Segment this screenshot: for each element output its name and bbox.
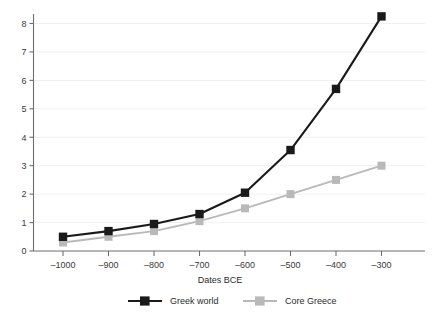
y-axis-tick-label: 8: [21, 19, 26, 29]
data-series-layer: [59, 12, 386, 246]
chart-container: 012345678 –1000–900–800–700–600–500–400–…: [0, 0, 441, 319]
data-point-marker: [59, 233, 67, 241]
data-point-marker: [332, 85, 340, 93]
y-axis-tick-label: 3: [21, 161, 26, 171]
x-axis-tick-label: –1000: [50, 260, 75, 270]
x-axis-ticks: [63, 251, 382, 256]
series-line: [63, 16, 382, 236]
axis-lines: [34, 14, 426, 251]
chart-legend: Greek worldCore Greece: [128, 296, 337, 306]
x-axis-tick-label: –700: [189, 260, 209, 270]
y-axis-tick-label: 0: [21, 246, 26, 256]
data-point-marker: [196, 217, 204, 225]
y-axis-tick-labels: 012345678: [21, 19, 26, 256]
data-point-marker: [150, 220, 158, 228]
data-point-marker: [195, 210, 203, 218]
x-axis-tick-label: –800: [144, 260, 164, 270]
y-axis-tick-label: 2: [21, 189, 26, 199]
x-axis-tick-label: –600: [235, 260, 255, 270]
data-point-marker: [287, 190, 295, 198]
y-axis-tick-label: 1: [21, 218, 26, 228]
legend-marker-swatch: [140, 296, 150, 305]
data-point-marker: [241, 189, 249, 197]
x-axis-tick-label: –500: [280, 260, 300, 270]
data-point-marker: [104, 227, 112, 235]
data-point-marker: [286, 146, 294, 154]
x-axis-title: Dates BCE: [198, 275, 243, 285]
y-axis-tick-label: 5: [21, 104, 26, 114]
data-point-marker: [241, 204, 249, 212]
x-axis-tick-label: –900: [98, 260, 118, 270]
legend-item-label: Greek world: [170, 296, 219, 306]
y-axis-ticks: [30, 24, 34, 252]
y-axis-tick-label: 4: [21, 133, 26, 143]
data-point-marker: [378, 162, 386, 170]
data-point-marker: [377, 12, 385, 20]
line-chart: 012345678 –1000–900–800–700–600–500–400–…: [0, 0, 441, 319]
gridlines: [34, 24, 426, 223]
x-axis-tick-label: –300: [371, 260, 391, 270]
data-point-marker: [150, 227, 158, 235]
legend-marker-swatch: [255, 296, 265, 305]
x-axis-tick-label: –400: [326, 260, 346, 270]
data-point-marker: [332, 176, 340, 184]
y-axis-tick-label: 7: [21, 47, 26, 57]
x-axis-tick-labels: –1000–900–800–700–600–500–400–300: [50, 260, 391, 270]
legend-item-label: Core Greece: [285, 296, 337, 306]
y-axis-tick-label: 6: [21, 76, 26, 86]
